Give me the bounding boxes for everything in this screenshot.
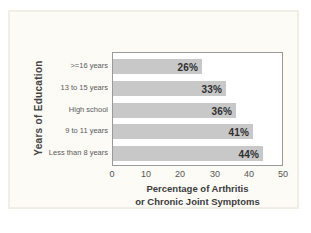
bar-row: 26% — [113, 59, 282, 74]
category-label: >=16 years — [28, 61, 108, 71]
chart-panel: Years of Education >=16 years 13 to 15 y… — [8, 10, 299, 209]
plot-area: 26% 33% 36% 41% 44% — [112, 52, 283, 166]
x-axis-title-line2: or Chronic Joint Symptoms — [107, 195, 288, 208]
bar-value-label: 33% — [201, 83, 222, 94]
bar-less-than-8-years: 44% — [113, 146, 263, 161]
bar-high-school: 36% — [113, 103, 236, 118]
bar-9-to-11-years: 41% — [113, 124, 253, 139]
bar-row: 33% — [113, 81, 282, 96]
chart-figure: Years of Education >=16 years 13 to 15 y… — [0, 0, 311, 233]
bar-value-label: 41% — [228, 126, 249, 137]
bar-row: 41% — [113, 124, 282, 139]
bar-ge-16-years: 26% — [113, 59, 202, 74]
x-tick-label: 20 — [165, 169, 195, 179]
x-axis-title: Percentage of Arthritis or Chronic Joint… — [107, 182, 288, 208]
category-label: High school — [28, 105, 108, 115]
category-label: 13 to 15 years — [28, 83, 108, 93]
bar-row: 36% — [113, 103, 282, 118]
bar-13-to-15-years: 33% — [113, 81, 226, 96]
x-tick-label: 30 — [200, 169, 230, 179]
category-label: Less than 8 years — [28, 148, 108, 158]
x-tick-label: 50 — [268, 169, 298, 179]
x-tick-label: 40 — [234, 169, 264, 179]
bar-value-label: 26% — [177, 61, 198, 72]
x-tick-label: 10 — [131, 169, 161, 179]
bar-value-label: 44% — [238, 148, 259, 159]
category-label: 9 to 11 years — [28, 126, 108, 136]
bar-value-label: 36% — [211, 105, 232, 116]
bar-row: 44% — [113, 146, 282, 161]
x-tick-label: 0 — [97, 169, 127, 179]
x-axis-title-line1: Percentage of Arthritis — [107, 182, 288, 195]
